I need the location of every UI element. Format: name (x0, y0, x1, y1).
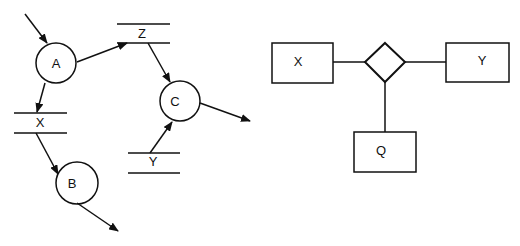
entity-x-label: X (294, 54, 303, 69)
flow-external-to-a (25, 14, 47, 43)
flow-z-to-c (148, 43, 170, 82)
flow-b-to-external (77, 203, 118, 231)
flow-c-to-external (200, 103, 250, 121)
store-x-label: X (36, 115, 45, 130)
entity-x (272, 43, 333, 83)
flow-a-to-z (77, 43, 127, 62)
entity-y-label: Y (478, 53, 487, 68)
flow-a-to-x (37, 83, 45, 112)
process-c-label: C (170, 94, 179, 109)
relationship-diamond (365, 43, 405, 82)
diagram-canvas: A B C Z X Y X Y Q (0, 0, 520, 246)
store-z-label: Z (138, 26, 146, 41)
process-b (56, 162, 98, 204)
entity-q-label: Q (376, 143, 386, 158)
process-c (160, 81, 200, 121)
process-a-label: A (52, 56, 61, 71)
flow-y-to-c (150, 122, 172, 153)
flow-x-to-b (36, 133, 58, 174)
data-flow-diagram (14, 14, 250, 231)
er-diagram (272, 43, 509, 172)
store-y-label: Y (149, 154, 158, 169)
process-b-label: B (68, 176, 77, 191)
